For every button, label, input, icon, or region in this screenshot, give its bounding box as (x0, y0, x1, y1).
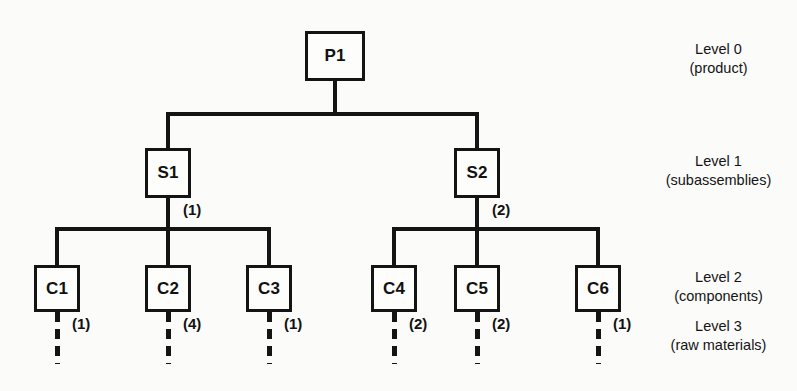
node-c4[interactable]: C4 (371, 265, 417, 312)
connector-level2-bus-right (392, 227, 600, 231)
node-c6-label: C6 (587, 279, 609, 299)
node-p1[interactable]: P1 (305, 31, 365, 81)
raw-material-stub-c4 (392, 312, 397, 364)
connector-p1-stem (333, 81, 337, 115)
connector-s1-drop (166, 112, 170, 150)
connector-c6-drop (596, 227, 600, 265)
level-legend-1: Level 1 (subassemblies) (640, 152, 797, 189)
node-c2-label: C2 (157, 279, 179, 299)
quantity-s2: (2) (492, 201, 510, 218)
raw-material-stub-c6 (596, 312, 601, 364)
bom-tree-diagram: P1 S1 S2 (1) (2) C1 C2 C3 C4 C5 C6 (0, 0, 797, 391)
node-p1-label: P1 (324, 46, 345, 66)
connector-c2-drop (166, 227, 170, 265)
connector-c3-drop (267, 227, 271, 265)
quantity-c6: (1) (613, 315, 631, 332)
node-s1-label: S1 (157, 163, 178, 183)
quantity-c4: (2) (409, 315, 427, 332)
node-c3[interactable]: C3 (246, 265, 292, 312)
level-legend-0-name: Level 0 (640, 40, 797, 59)
raw-material-stub-c3 (267, 312, 272, 364)
connector-level2-bus-left (55, 227, 271, 231)
node-s2-label: S2 (466, 163, 487, 183)
raw-material-stub-c1 (55, 312, 60, 364)
level-legend-1-description: (subassemblies) (640, 171, 797, 190)
raw-material-stub-c2 (166, 312, 171, 364)
level-legend-3: Level 3 (raw materials) (640, 317, 797, 354)
level-legend-0-description: (product) (640, 59, 797, 78)
node-s2[interactable]: S2 (454, 148, 500, 198)
quantity-c2: (4) (183, 315, 201, 332)
level-legend-2-name: Level 2 (640, 268, 797, 287)
level-legend-3-name: Level 3 (640, 317, 797, 336)
level-legend-2-description: (components) (640, 287, 797, 306)
node-c1[interactable]: C1 (34, 265, 80, 312)
connector-c1-drop (55, 227, 59, 265)
raw-material-stub-c5 (475, 312, 480, 364)
level-legend-0: Level 0 (product) (640, 40, 797, 77)
node-c3-label: C3 (258, 279, 280, 299)
node-c6[interactable]: C6 (575, 265, 621, 312)
quantity-s1: (1) (183, 201, 201, 218)
connector-c5-drop (475, 227, 479, 265)
connector-s2-drop (475, 112, 479, 150)
node-c5-label: C5 (466, 279, 488, 299)
level-legend-2: Level 2 (components) (640, 268, 797, 305)
node-c2[interactable]: C2 (145, 265, 191, 312)
quantity-c3: (1) (284, 315, 302, 332)
connector-s1-stem (166, 198, 170, 230)
quantity-c1: (1) (72, 315, 90, 332)
level-legend-3-description: (raw materials) (640, 336, 797, 355)
node-s1[interactable]: S1 (145, 148, 191, 198)
node-c5[interactable]: C5 (454, 265, 500, 312)
connector-level1-bus (166, 112, 479, 116)
connector-s2-stem (475, 198, 479, 230)
connector-c4-drop (392, 227, 396, 265)
level-legend-1-name: Level 1 (640, 152, 797, 171)
node-c4-label: C4 (383, 279, 405, 299)
quantity-c5: (2) (492, 315, 510, 332)
node-c1-label: C1 (46, 279, 68, 299)
